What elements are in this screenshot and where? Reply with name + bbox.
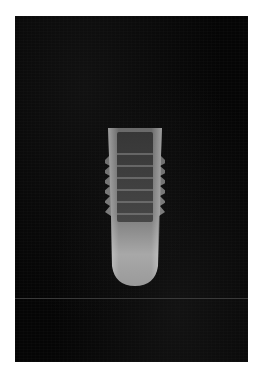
- horizontal-artifact-line: [15, 298, 248, 299]
- dental-implant-image: [105, 126, 165, 288]
- xray-panel: [15, 16, 248, 362]
- caption-text: [12, 366, 252, 378]
